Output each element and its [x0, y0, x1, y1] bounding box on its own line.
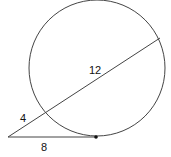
diagram-canvas: 4 12 8: [0, 0, 171, 157]
label-tangent: 8: [41, 142, 47, 153]
geometry-figure: [0, 0, 171, 157]
tangent-point-dot: [94, 135, 98, 139]
label-secant-internal: 12: [89, 65, 101, 76]
label-secant-external: 4: [20, 113, 26, 124]
